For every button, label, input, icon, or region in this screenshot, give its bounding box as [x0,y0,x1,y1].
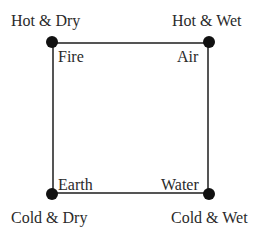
element-label-water: Water [161,177,199,193]
quality-label-cold-wet: Cold & Wet [171,210,248,226]
corner-dot-top-right [203,36,215,48]
corner-dot-bottom-right [203,188,215,200]
element-label-fire: Fire [58,49,84,65]
element-label-earth: Earth [58,177,93,193]
corner-dot-top-left [46,36,58,48]
quality-label-cold-dry: Cold & Dry [11,210,87,226]
quality-label-hot-wet: Hot & Wet [172,13,242,29]
element-label-air: Air [177,49,198,65]
corner-dot-bottom-left [46,188,58,200]
quality-label-hot-dry: Hot & Dry [11,13,80,29]
elements-diagram: Hot & Dry Hot & Wet Cold & Dry Cold & We… [0,0,265,237]
